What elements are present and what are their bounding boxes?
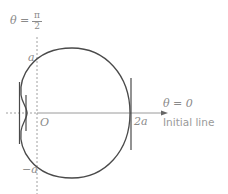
label-theta-zero: θ = 0 (163, 97, 193, 110)
theta-half-pi-label: θ = (10, 14, 29, 27)
label-a: a (28, 51, 35, 64)
label-initial-line: Initial line (163, 116, 214, 128)
pi-denominator: 2 (32, 21, 42, 31)
label-origin: O (40, 116, 49, 129)
pi-numerator: π (32, 10, 42, 20)
label-2a: 2a (134, 115, 148, 128)
arrow-icon (161, 111, 168, 116)
label-neg-a: −a (22, 163, 38, 176)
